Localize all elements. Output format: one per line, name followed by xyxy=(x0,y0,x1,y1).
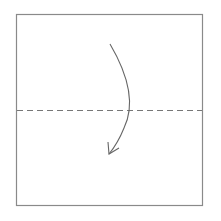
fold-diagram xyxy=(0,0,221,221)
